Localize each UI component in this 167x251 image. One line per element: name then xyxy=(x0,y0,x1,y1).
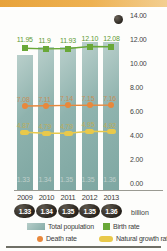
dark-circle-icon xyxy=(114,15,123,24)
legend-label: Birth rate xyxy=(113,223,139,230)
population-badge-2011: 1.35 xyxy=(58,204,79,218)
y-tick-4: 4.00 xyxy=(130,132,143,139)
x-label-2013: 2013 xyxy=(101,193,121,202)
bar-value-label: 1.33 xyxy=(17,176,30,183)
bar-2010 xyxy=(38,47,54,190)
y-tick-6: 6.00 xyxy=(130,108,143,115)
bottom-divider xyxy=(6,246,161,248)
bar-2012 xyxy=(82,42,98,190)
chart-figure: 14.00 12.00 10.00 8.00 6.00 4.00 2.00 0.… xyxy=(0,0,167,251)
legend-item-total-population: Total population xyxy=(27,223,94,230)
pill-marker-icon xyxy=(99,236,113,242)
bar-value-label: 1.35 xyxy=(82,176,95,183)
legend-item-natural-growth-rate: Natural growth rate xyxy=(99,235,167,242)
bar-2009 xyxy=(17,55,33,190)
bar-group: 1.331.341.351.351.36 xyxy=(14,24,122,190)
top-banner xyxy=(0,0,167,7)
y-axis: 14.00 12.00 10.00 8.00 6.00 4.00 2.00 0.… xyxy=(124,10,167,195)
y-tick-2: 2.00 xyxy=(130,156,143,163)
bar-2013 xyxy=(103,42,119,190)
y-tick-0: 0.00 xyxy=(130,180,143,187)
legend-label: Total population xyxy=(48,223,94,230)
bar-value-label: 1.36 xyxy=(103,176,116,183)
unit-label: billion xyxy=(131,209,149,216)
legend: Total population Birth rate Death rate N… xyxy=(13,223,165,245)
population-badge-2013: 1.36 xyxy=(101,204,122,218)
legend-label: Death rate xyxy=(46,235,77,242)
legend-label: Natural growth rate xyxy=(116,235,167,242)
bar-value-label: 1.35 xyxy=(60,176,73,183)
population-badge-2009: 1.33 xyxy=(14,204,35,218)
legend-item-birth-rate: Birth rate xyxy=(103,223,139,230)
circle-marker-icon xyxy=(37,236,43,242)
x-label-2010: 2010 xyxy=(36,193,56,202)
population-badge-2012: 1.35 xyxy=(79,204,100,218)
legend-item-death-rate: Death rate xyxy=(37,235,77,242)
x-label-2009: 2009 xyxy=(15,193,35,202)
y-tick-12: 12.00 xyxy=(130,36,147,43)
x-label-2012: 2012 xyxy=(80,193,100,202)
y-tick-8: 8.00 xyxy=(130,84,143,91)
square-marker-icon xyxy=(103,223,110,230)
bar-2011 xyxy=(60,47,76,190)
bar-value-label: 1.34 xyxy=(38,176,51,183)
population-badge-2010: 1.34 xyxy=(36,204,57,218)
population-badge-group: 1.331.341.351.351.36 xyxy=(12,204,127,220)
y-tick-14: 14.00 xyxy=(130,12,147,19)
bar-swatch xyxy=(27,223,45,230)
x-label-2011: 2011 xyxy=(58,193,78,202)
axis-baseline xyxy=(14,190,163,191)
y-tick-10: 10.00 xyxy=(130,60,147,67)
plot-area: 1.331.341.351.351.36 11.9511.911.9312.10… xyxy=(14,24,122,190)
